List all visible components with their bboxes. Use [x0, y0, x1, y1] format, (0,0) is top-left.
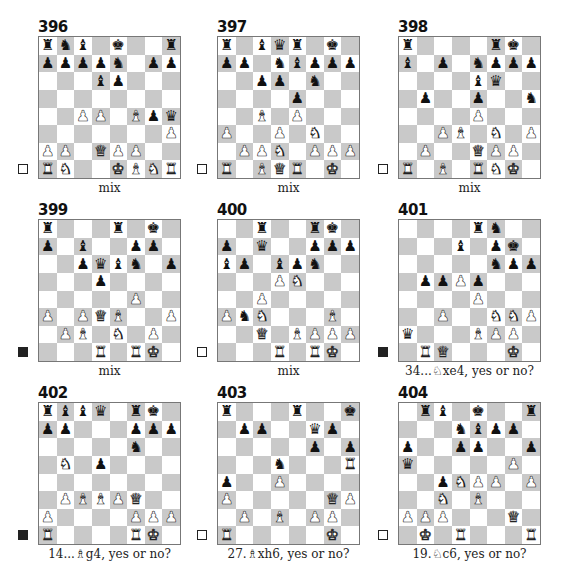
white-king-icon: ♚ — [112, 162, 125, 177]
square-h4 — [162, 291, 180, 309]
square-g8: ♚ — [145, 220, 163, 238]
white-pawn-icon: ♟ — [94, 109, 107, 124]
square-b8: ♝ — [57, 403, 75, 421]
square-b6 — [417, 255, 435, 273]
square-a5 — [399, 90, 417, 108]
square-a8: ♜ — [218, 403, 236, 421]
white-rook-icon: ♜ — [129, 345, 142, 360]
diagram-397: 397 ♜♝♛♜♚♟♟♞♝♟♟♟♟♟♞♟♝♟♟♟♞♟♟♞♟♟♟♜♝♛♜♚ mix — [217, 18, 397, 208]
square-f8 — [306, 37, 324, 55]
square-b6 — [57, 438, 75, 456]
black-pawn-icon: ♟ — [326, 422, 339, 437]
square-h2: ♟ — [341, 143, 359, 161]
square-e1 — [289, 526, 307, 544]
square-f6: ♞ — [306, 255, 324, 273]
chess-board: ♜♜♚♟♝♟♟♟♛♝♞♟♟♟♟♟♛♝♟♟♝♞♟♜♜♚ — [38, 219, 181, 362]
square-b8 — [236, 403, 254, 421]
white-knight-icon: ♞ — [308, 126, 321, 141]
square-h4: ♟ — [522, 474, 540, 492]
black-pawn-icon: ♟ — [147, 56, 160, 71]
square-e8 — [110, 403, 128, 421]
diagram-caption: 19.♘c6, yes or no? — [398, 547, 541, 561]
white-pawn-icon: ♟ — [147, 327, 160, 342]
square-a4 — [39, 108, 57, 126]
black-pawn-icon: ♟ — [489, 239, 502, 254]
square-c2: ♛ — [253, 326, 271, 344]
square-d8: ♛ — [271, 37, 289, 55]
white-pawn-icon: ♟ — [112, 144, 125, 159]
white-king-icon: ♚ — [326, 345, 339, 360]
square-d3: ♝ — [452, 125, 470, 143]
diagram-caption: mix — [217, 181, 360, 195]
square-g2: ♛ — [505, 509, 523, 527]
square-f4 — [487, 291, 505, 309]
square-d5: ♟ — [92, 273, 110, 291]
square-c4: ♟ — [253, 291, 271, 309]
black-rook-icon: ♜ — [220, 38, 233, 53]
square-f6: ♟ — [306, 438, 324, 456]
square-a7: ♟ — [39, 55, 57, 73]
square-g2: ♟ — [145, 509, 163, 527]
black-bishop-icon: ♝ — [472, 74, 485, 89]
chess-board: ♜♜♚♝♟♞♟♟♟♝♛♟♟♞♟♟♝♞♟♟♛♟♟♜♝♜♞♚ — [398, 36, 541, 179]
black-rook-icon: ♜ — [220, 404, 233, 419]
square-b3: ♞ — [236, 308, 254, 326]
black-king-icon: ♚ — [147, 404, 160, 419]
square-f1: ♜ — [127, 526, 145, 544]
square-e6 — [289, 438, 307, 456]
black-bishop-icon: ♝ — [401, 56, 414, 71]
square-e2 — [289, 509, 307, 527]
square-e8 — [470, 37, 488, 55]
square-b8 — [417, 37, 435, 55]
black-knight-icon: ♞ — [308, 74, 321, 89]
square-b1 — [236, 526, 254, 544]
square-f3 — [127, 308, 145, 326]
square-f4: ♟ — [127, 291, 145, 309]
square-a7: ♝ — [399, 55, 417, 73]
square-a4 — [218, 291, 236, 309]
square-h8: ♜ — [522, 403, 540, 421]
diagram-400: 400 ♜♜♚♟♛♟♟♟♝♟♝♟♞♟♞♟♟♞♞♝♛♝♟♟♟♜♜♚ mix — [217, 201, 397, 391]
square-e7: ♝ — [289, 55, 307, 73]
square-f6: ♞ — [487, 255, 505, 273]
black-bishop-icon: ♝ — [76, 38, 89, 53]
square-e3 — [289, 491, 307, 509]
black-bishop-icon: ♝ — [454, 239, 467, 254]
black-knight-icon: ♞ — [238, 309, 251, 324]
black-pawn-icon: ♟ — [59, 422, 72, 437]
square-h1 — [341, 160, 359, 178]
square-c7 — [253, 55, 271, 73]
square-d3: ♛ — [92, 308, 110, 326]
square-e3 — [110, 125, 128, 143]
square-h1 — [341, 526, 359, 544]
side-to-move-indicator — [378, 347, 388, 357]
square-h6 — [162, 72, 180, 90]
diagram-number: 396 — [38, 18, 68, 36]
square-c3 — [253, 491, 271, 509]
white-rook-icon: ♜ — [308, 345, 321, 360]
square-a3 — [399, 491, 417, 509]
black-pawn-icon: ♟ — [524, 440, 537, 455]
square-f6 — [487, 438, 505, 456]
black-pawn-icon: ♟ — [164, 422, 177, 437]
square-g6: ♟ — [505, 255, 523, 273]
white-pawn-icon: ♟ — [524, 475, 537, 490]
square-a5 — [218, 90, 236, 108]
square-c7: ♟ — [434, 55, 452, 73]
square-e3 — [470, 125, 488, 143]
square-e1 — [110, 526, 128, 544]
square-a6 — [399, 72, 417, 90]
square-d1 — [452, 343, 470, 361]
square-d6 — [92, 438, 110, 456]
square-g1 — [505, 526, 523, 544]
square-a8: ♜ — [39, 403, 57, 421]
white-pawn-icon: ♟ — [308, 144, 321, 159]
square-h5 — [522, 456, 540, 474]
square-h8 — [522, 37, 540, 55]
black-knight-icon: ♞ — [129, 440, 142, 455]
square-f7: ♟ — [127, 238, 145, 256]
white-pawn-icon: ♟ — [507, 457, 520, 472]
square-h4 — [341, 291, 359, 309]
square-c8: ♜ — [253, 220, 271, 238]
square-e7: ♞ — [470, 55, 488, 73]
